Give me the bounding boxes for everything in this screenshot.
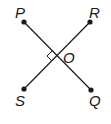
label-o: O [63,50,75,65]
label-q: Q [89,93,101,108]
perpendicular-lines-diagram: P R S Q O [0,0,111,124]
label-r: R [89,5,100,20]
segment-pq [24,22,91,90]
label-s: S [15,93,25,108]
label-p: P [15,5,25,20]
point-s-dot [21,86,26,91]
right-angle-marker [47,51,52,61]
